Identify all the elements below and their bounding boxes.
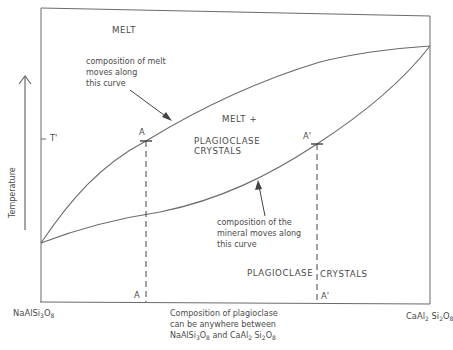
solidus-annotation-line3: this curve: [217, 239, 257, 250]
solidus-pointer-line: [259, 186, 265, 216]
solidus-annotation-line1: composition of the: [217, 217, 292, 228]
solidus-pointer-arrow-icon: [255, 180, 262, 190]
liquidus-annotation-line1: composition of melt: [86, 56, 166, 67]
x-caption-line2: can be anywhere between: [170, 319, 276, 330]
liquidus-annotation-line2: moves along: [86, 67, 137, 78]
point-a-prime-label-top: A': [303, 131, 311, 142]
region-melt-label: MELT: [112, 25, 136, 36]
region-melt-plus-label: MELT +: [222, 114, 257, 125]
point-a-label-top: A: [139, 127, 145, 138]
liquidus-pointer-arrow-icon: [162, 112, 172, 121]
endmember-anorthite: CaAl2 Si2O8: [406, 311, 453, 324]
liquidus-annotation-line3: this curve: [86, 78, 126, 89]
frame-top: [41, 8, 430, 16]
x-axis: [40, 302, 430, 304]
point-a-label-bottom: A: [134, 290, 140, 301]
point-a-prime-label-bottom: A': [321, 291, 329, 302]
region-melt-plus-label-3: CRYSTALS: [194, 146, 242, 157]
x-caption-line1: Composition of plagioclase: [170, 308, 278, 319]
liquidus-pointer-line: [130, 90, 168, 118]
solidus-annotation-line2: mineral moves along: [217, 228, 301, 239]
region-solid-label-right: CRYSTALS: [320, 269, 368, 280]
endmember-albite: NaAlSi3O8: [13, 308, 54, 321]
y-axis-label: Temperature: [8, 167, 17, 218]
region-solid-label-left: PLAGIOCLASE: [247, 268, 313, 279]
t-prime-label: T': [50, 133, 57, 144]
x-caption-line3: NaAlSi3O8 and CaAl2 Si2O8: [170, 330, 276, 343]
